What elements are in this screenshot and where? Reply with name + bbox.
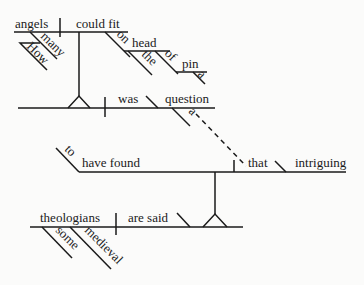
word-that: that bbox=[248, 155, 268, 170]
word-intriguing: intriguing bbox=[295, 155, 347, 170]
pedestal-fork-bottom bbox=[203, 214, 227, 227]
word-are-said: are said bbox=[128, 210, 169, 225]
word-could-fit: could fit bbox=[76, 16, 120, 31]
word-was: was bbox=[118, 91, 138, 106]
dashed-connector bbox=[196, 114, 246, 166]
word-pin: pin bbox=[182, 56, 199, 71]
word-question: question bbox=[165, 91, 210, 106]
complement-slash bbox=[275, 161, 286, 172]
sentence-diagram: angels could fit many How on head the of… bbox=[0, 0, 364, 285]
predicate-slash bbox=[146, 96, 158, 108]
word-angels: angels bbox=[15, 16, 48, 31]
word-have-found: have found bbox=[82, 155, 141, 170]
infinitive-phrase: to have found that intriguing bbox=[56, 142, 347, 214]
object-slash bbox=[177, 213, 190, 227]
pedestal-fork-top bbox=[68, 96, 90, 108]
word-medieval: medieval bbox=[82, 223, 127, 268]
main-clause: theologians are said some medieval bbox=[30, 210, 243, 269]
modifier-slant-a-question bbox=[172, 108, 190, 126]
word-head: head bbox=[132, 35, 157, 50]
top-clause: angels could fit many How on head the of… bbox=[14, 16, 210, 96]
